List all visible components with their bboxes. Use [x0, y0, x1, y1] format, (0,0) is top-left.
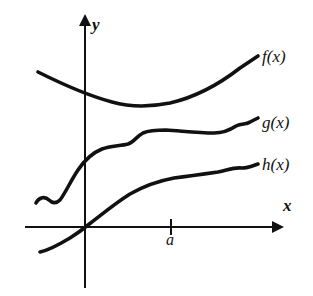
- y-axis: [79, 14, 91, 288]
- curve-label-f: f(x): [262, 48, 286, 65]
- x-axis-label: x: [283, 197, 292, 214]
- curve-g: [36, 118, 258, 203]
- x-axis-tick-label-a: a: [166, 232, 174, 248]
- y-axis-label: y: [92, 16, 100, 33]
- y-axis-arrowhead: [79, 14, 91, 26]
- plot-canvas: [0, 0, 313, 296]
- curve-f: [38, 56, 258, 106]
- curve-label-h: h(x): [262, 156, 289, 173]
- graph-figure: f(x) g(x) h(x) x y a: [0, 0, 313, 296]
- x-axis-arrowhead: [272, 221, 284, 233]
- x-axis: [25, 219, 284, 235]
- curve-label-g: g(x): [262, 114, 289, 131]
